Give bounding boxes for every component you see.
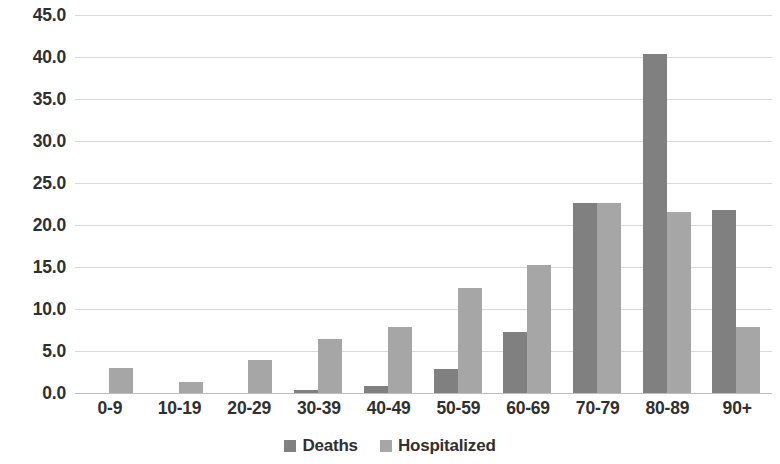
bar-group <box>702 15 772 393</box>
bar-hospitalized-0-9 <box>109 368 133 393</box>
legend-item-deaths: Deaths <box>284 436 358 456</box>
bar-deaths-70-79 <box>573 203 597 393</box>
x-axis-tick-label: 50-59 <box>424 398 494 419</box>
bar-hospitalized-60-69 <box>527 265 551 393</box>
gridline <box>75 393 772 394</box>
bar-deaths-50-59 <box>434 369 458 393</box>
bar-hospitalized-90+ <box>736 327 760 393</box>
legend-swatch-icon <box>284 440 296 452</box>
bar-group <box>563 15 633 393</box>
y-axis-tick-label: 35.0 <box>4 89 66 110</box>
y-axis-tick-label: 15.0 <box>4 257 66 278</box>
bar-hospitalized-10-19 <box>179 382 203 393</box>
plot-area <box>75 15 772 393</box>
y-axis-tick-label: 45.0 <box>4 5 66 26</box>
x-axis-tick-label: 80-89 <box>633 398 703 419</box>
bar-deaths-30-39 <box>294 390 318 393</box>
legend-item-hospitalized: Hospitalized <box>380 436 496 456</box>
legend-swatch-icon <box>380 440 392 452</box>
bar-group <box>284 15 354 393</box>
x-axis-tick-label: 40-49 <box>354 398 424 419</box>
legend-label: Hospitalized <box>398 436 496 456</box>
bar-group <box>145 15 215 393</box>
bar-group <box>75 15 145 393</box>
bar-deaths-80-89 <box>643 54 667 393</box>
x-axis-tick-label: 70-79 <box>563 398 633 419</box>
legend-label: Deaths <box>302 436 358 456</box>
bar-hospitalized-80-89 <box>667 212 691 393</box>
bar-hospitalized-20-29 <box>248 360 272 393</box>
bar-chart: 45.040.035.030.025.020.015.010.05.00.0 0… <box>0 0 780 464</box>
chart-legend: DeathsHospitalized <box>0 436 780 456</box>
bar-deaths-60-69 <box>503 332 527 393</box>
x-axis-tick-label: 0-9 <box>75 398 145 419</box>
y-axis-tick-label: 25.0 <box>4 173 66 194</box>
x-axis-tick-label: 20-29 <box>214 398 284 419</box>
y-axis-tick-label: 5.0 <box>4 341 66 362</box>
bars-layer <box>75 15 772 393</box>
x-axis-tick-label: 60-69 <box>493 398 563 419</box>
bar-group <box>493 15 563 393</box>
x-axis-tick-label: 10-19 <box>145 398 215 419</box>
x-axis: 0-910-1920-2930-3940-4950-5960-6970-7980… <box>75 398 772 424</box>
x-axis-tick-label: 30-39 <box>284 398 354 419</box>
bar-hospitalized-70-79 <box>597 203 621 393</box>
y-axis-tick-label: 0.0 <box>4 383 66 404</box>
bar-group <box>354 15 424 393</box>
bar-hospitalized-30-39 <box>318 339 342 393</box>
bar-hospitalized-40-49 <box>388 327 412 393</box>
bar-group <box>633 15 703 393</box>
bar-deaths-40-49 <box>364 386 388 393</box>
x-axis-tick-label: 90+ <box>702 398 772 419</box>
bar-group <box>214 15 284 393</box>
y-axis-tick-label: 10.0 <box>4 299 66 320</box>
bar-deaths-90+ <box>712 210 736 393</box>
bar-hospitalized-50-59 <box>458 288 482 393</box>
y-axis-tick-label: 40.0 <box>4 47 66 68</box>
y-axis-tick-label: 30.0 <box>4 131 66 152</box>
y-axis-tick-label: 20.0 <box>4 215 66 236</box>
bar-group <box>424 15 494 393</box>
